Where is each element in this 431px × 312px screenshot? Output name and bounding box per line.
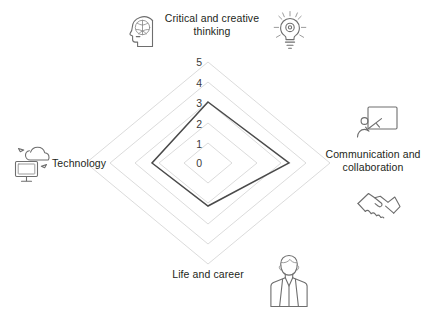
data-series-polygon xyxy=(152,102,289,206)
radar-chart-figure: 5 4 3 2 1 0 Critical and creative thinki… xyxy=(0,0,431,312)
businessperson-icon xyxy=(268,252,310,310)
axis-label-communication-collaboration: Communication and collaboration xyxy=(318,148,428,173)
tick-label-5: 5 xyxy=(188,57,202,68)
presentation-board-icon xyxy=(352,103,400,143)
handshake-icon xyxy=(355,188,403,222)
axis-label-technology: Technology xyxy=(52,157,122,170)
brain-head-icon xyxy=(122,11,164,53)
lightbulb-icon xyxy=(268,10,312,58)
tick-label-1: 1 xyxy=(188,139,202,150)
computer-cloud-icon xyxy=(12,139,60,185)
tick-label-4: 4 xyxy=(188,78,202,89)
axis-label-critical-creative-thinking: Critical and creative thinking xyxy=(152,12,272,37)
tick-label-2: 2 xyxy=(188,119,202,130)
tick-label-0: 0 xyxy=(188,158,202,169)
axis-label-life-and-career: Life and career xyxy=(158,268,258,281)
tick-label-3: 3 xyxy=(188,98,202,109)
